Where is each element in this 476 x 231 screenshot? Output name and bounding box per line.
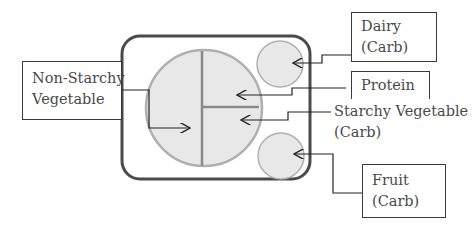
starchy-label-line2: (Carb) <box>334 122 468 143</box>
protein-label: Protein <box>361 75 415 96</box>
fruit-label-line1: Fruit <box>372 170 419 191</box>
starchy-label-line1: Starchy Vegetable <box>334 101 468 122</box>
fruit-circle <box>258 133 304 179</box>
dairy-label: Dairy (Carb) <box>361 16 408 58</box>
dairy-label-line1: Dairy <box>361 16 408 37</box>
plate-method-diagram: Non-Starchy Vegetable Dairy (Carb) Prote… <box>0 0 476 231</box>
starchy-label: Starchy Vegetable (Carb) <box>334 101 468 143</box>
non-starchy-label-line2: Vegetable <box>32 89 125 110</box>
non-starchy-label-line1: Non-Starchy <box>32 68 125 89</box>
non-starchy-label: Non-Starchy Vegetable <box>32 68 125 110</box>
dairy-circle <box>257 41 303 87</box>
fruit-label-line2: (Carb) <box>372 191 419 212</box>
dairy-label-line2: (Carb) <box>361 37 408 58</box>
protein-label-line1: Protein <box>361 75 415 96</box>
fruit-label: Fruit (Carb) <box>372 170 419 212</box>
